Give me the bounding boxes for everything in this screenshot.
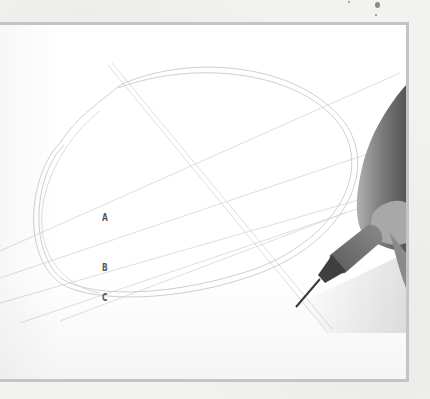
label-b: B: [102, 262, 108, 273]
label-a: A: [102, 212, 108, 223]
illustration-frame: A B C: [0, 22, 409, 382]
ink-splatter: [375, 14, 377, 16]
ink-splatter: [348, 1, 350, 3]
frame-shading: [0, 25, 406, 379]
ink-splatter: [375, 2, 380, 8]
label-c: C: [102, 292, 108, 303]
